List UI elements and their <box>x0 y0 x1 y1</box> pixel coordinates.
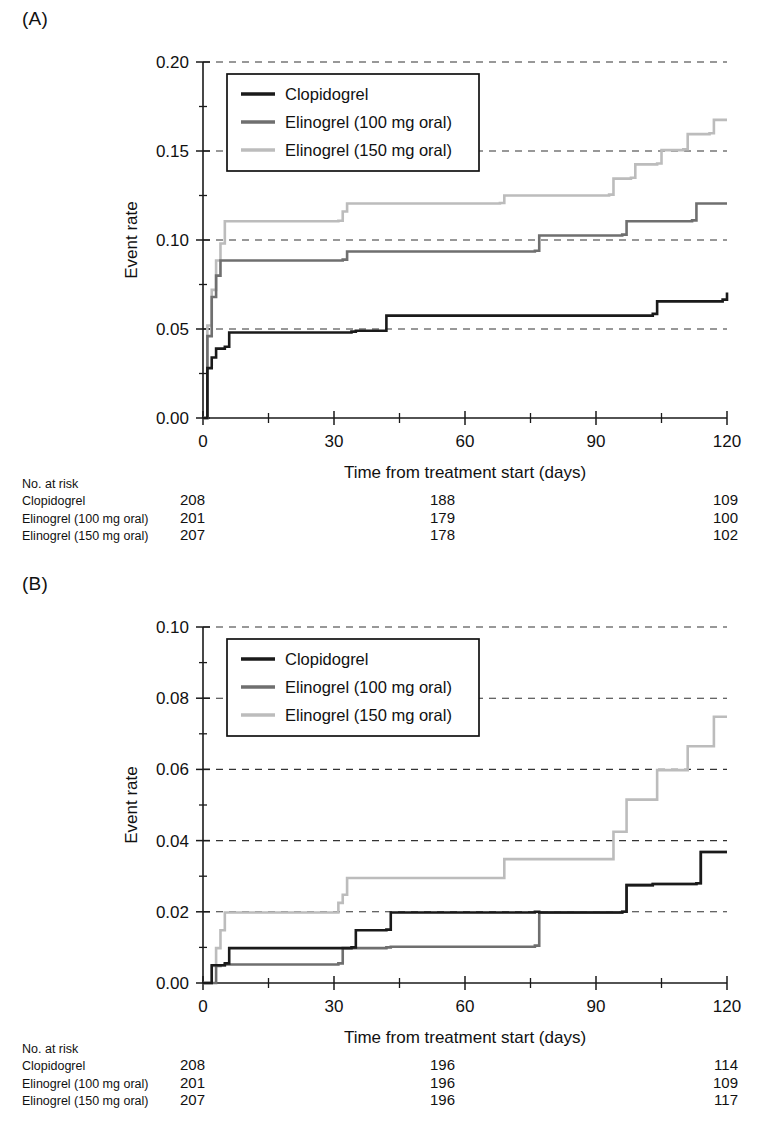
y-tick-label: 0.00 <box>156 409 189 428</box>
y-tick-label: 0.00 <box>156 974 189 993</box>
km-curve-elinogrel-150-mg-oral <box>203 717 727 983</box>
risk-value-day120: 114 <box>678 1057 738 1073</box>
risk-row-clopidogrel: Clopidogrel 208 196 114 <box>22 1057 746 1075</box>
risk-value-day0: 207 <box>180 527 430 543</box>
panel-a-svg: 0.000.050.100.150.200306090120Time from … <box>0 0 766 500</box>
x-tick-label: 120 <box>713 997 741 1016</box>
risk-value-day60: 179 <box>430 510 678 526</box>
x-tick-label: 120 <box>713 432 741 451</box>
risk-value-day0: 201 <box>180 510 430 526</box>
risk-row-label: Elinogrel (150 mg oral) <box>22 529 180 545</box>
y-axis-title: Event rate <box>122 766 141 844</box>
x-tick-label: 60 <box>456 432 475 451</box>
x-tick-label: 0 <box>198 432 207 451</box>
x-tick-label: 60 <box>456 997 475 1016</box>
risk-value-day60: 178 <box>430 527 678 543</box>
x-tick-label: 30 <box>325 432 344 451</box>
risk-row-elinogrel-100: Elinogrel (100 mg oral) 201 196 109 <box>22 1075 746 1093</box>
risk-value-day0: 208 <box>180 492 430 508</box>
legend-label-2: Elinogrel (100 mg oral) <box>285 113 452 131</box>
y-tick-label: 0.15 <box>156 142 189 161</box>
risk-value-day60: 196 <box>430 1092 678 1108</box>
risk-value-day60: 196 <box>430 1075 678 1091</box>
y-tick-label: 0.02 <box>156 903 189 922</box>
y-tick-label: 0.20 <box>156 53 189 72</box>
panel-a-plot: 0.000.050.100.150.200306090120Time from … <box>0 0 766 500</box>
panel-b-plot: 0.000.020.040.060.080.100306090120Time f… <box>0 565 766 1065</box>
risk-value-day0: 207 <box>180 1092 430 1108</box>
panel-a-risk-table: No. at risk Clopidogrel 208 188 109 Elin… <box>22 477 746 545</box>
x-tick-label: 30 <box>325 997 344 1016</box>
y-tick-label: 0.08 <box>156 689 189 708</box>
y-tick-label: 0.06 <box>156 760 189 779</box>
risk-row-label: Elinogrel (100 mg oral) <box>22 512 180 528</box>
y-tick-label: 0.05 <box>156 320 189 339</box>
risk-value-day120: 109 <box>678 1075 738 1091</box>
risk-table-header: No. at risk <box>22 477 746 491</box>
risk-value-day120: 100 <box>678 510 738 526</box>
risk-row-label: Elinogrel (150 mg oral) <box>22 1094 180 1110</box>
y-tick-label: 0.04 <box>156 832 189 851</box>
risk-value-day120: 102 <box>678 527 738 543</box>
risk-row-clopidogrel: Clopidogrel 208 188 109 <box>22 492 746 510</box>
risk-row-elinogrel-150: Elinogrel (150 mg oral) 207 178 102 <box>22 527 746 545</box>
km-curve-elinogrel-100-mg-oral <box>203 852 727 983</box>
legend-label-2: Elinogrel (100 mg oral) <box>285 678 452 696</box>
risk-row-label: Clopidogrel <box>22 494 180 510</box>
x-tick-label: 0 <box>198 997 207 1016</box>
panel-b-risk-table: No. at risk Clopidogrel 208 196 114 Elin… <box>22 1042 746 1110</box>
risk-value-day0: 208 <box>180 1057 430 1073</box>
y-axis-title: Event rate <box>122 201 141 279</box>
legend-label-3: Elinogrel (150 mg oral) <box>285 706 452 724</box>
risk-value-day0: 201 <box>180 1075 430 1091</box>
y-tick-label: 0.10 <box>156 618 189 637</box>
km-curve-clopidogrel <box>203 293 727 418</box>
y-tick-label: 0.10 <box>156 231 189 250</box>
legend-label-3: Elinogrel (150 mg oral) <box>285 141 452 159</box>
legend-label-1: Clopidogrel <box>285 85 368 103</box>
legend-label-1: Clopidogrel <box>285 650 368 668</box>
risk-row-label: Clopidogrel <box>22 1059 180 1075</box>
x-tick-label: 90 <box>587 997 606 1016</box>
risk-row-elinogrel-150: Elinogrel (150 mg oral) 207 196 117 <box>22 1092 746 1110</box>
risk-table-header: No. at risk <box>22 1042 746 1056</box>
km-curve-elinogrel-100-mg-oral <box>203 204 727 418</box>
risk-value-day60: 188 <box>430 492 678 508</box>
risk-row-label: Elinogrel (100 mg oral) <box>22 1077 180 1093</box>
risk-value-day120: 109 <box>678 492 738 508</box>
risk-value-day120: 117 <box>678 1092 738 1108</box>
risk-row-elinogrel-100: Elinogrel (100 mg oral) 201 179 100 <box>22 510 746 528</box>
x-tick-label: 90 <box>587 432 606 451</box>
panel-b-svg: 0.000.020.040.060.080.100306090120Time f… <box>0 565 766 1065</box>
risk-value-day60: 196 <box>430 1057 678 1073</box>
panel-a: (A) 0.000.050.100.150.200306090120Time f… <box>0 0 766 570</box>
